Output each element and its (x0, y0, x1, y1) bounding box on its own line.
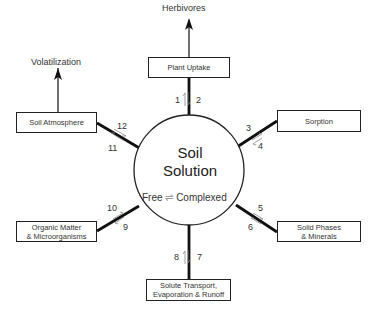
equilibrium-arrow-icon: ⇌ (165, 192, 173, 203)
solid-phases-label-2: & Minerals (297, 232, 341, 241)
flux-number-3: 3 (246, 123, 251, 133)
free-label: Free (142, 192, 163, 203)
flux-number-6: 6 (248, 222, 253, 232)
soil-atmosphere-label: Soil Atmosphere (29, 118, 84, 127)
plant-uptake-label: Plant Uptake (168, 63, 211, 72)
connector-sorption (237, 121, 277, 147)
solute-transport-box: Solute Transport, Evaporation & Runoff (146, 279, 231, 301)
connector-solid-phases (236, 205, 277, 232)
flux-number-8: 8 (174, 252, 179, 262)
solute-transport-label-2: Evaporation & Runoff (153, 290, 224, 299)
connector-organic-matter (97, 206, 139, 231)
sorption-box: Sorption (277, 110, 361, 132)
organic-matter-label-1: Organic Matter (26, 223, 86, 232)
organic-matter-box: Organic Matter & Microorganisms (16, 221, 97, 242)
herbivores-label: Herbivores (162, 3, 206, 13)
solute-transport-label-1: Solute Transport, (153, 281, 224, 290)
soil-solution-title-line1: Soil (150, 144, 230, 162)
equilibrium-label: Free ⇌ Complexed (142, 192, 227, 203)
plant-uptake-box: Plant Uptake (148, 57, 230, 78)
flux-number-2: 2 (196, 95, 201, 105)
flux-number-5: 5 (258, 203, 263, 213)
flux-number-9: 9 (123, 222, 128, 232)
soil-solution-title-line2: Solution (150, 162, 230, 180)
soil-solution-title: Soil Solution (150, 144, 230, 180)
flux-number-1: 1 (175, 95, 180, 105)
flux-number-11: 11 (108, 143, 117, 153)
flux-number-7: 7 (197, 252, 202, 262)
flux-number-12: 12 (117, 121, 127, 131)
complexed-label: Complexed (176, 192, 227, 203)
solid-phases-label-1: Solid Phases (297, 223, 341, 232)
flux-number-4: 4 (258, 141, 263, 151)
organic-matter-label-2: & Microorganisms (26, 232, 86, 241)
soil-atmosphere-box: Soil Atmosphere (16, 112, 97, 133)
flux-number-10: 10 (107, 203, 117, 213)
sorption-label: Sorption (305, 117, 333, 126)
volatilization-label: Volatilization (31, 57, 81, 67)
solid-phases-box: Solid Phases & Minerals (277, 221, 361, 242)
